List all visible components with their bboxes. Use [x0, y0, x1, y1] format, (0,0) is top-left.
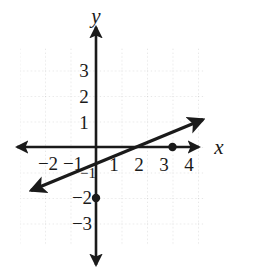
point-x-intercept [168, 143, 176, 151]
x-tick-label-2: 2 [134, 155, 144, 174]
y-tick-label-1: 1 [79, 113, 89, 132]
y-tick-label-3: 3 [79, 61, 89, 80]
coordinate-plane-figure: −2 −1 1 2 3 4 3 2 1 −1 −2 −3 x y [0, 0, 255, 272]
x-tick-label-neg2: −2 [38, 154, 58, 173]
x-tick-label-4: 4 [184, 155, 194, 174]
x-tick-label-1: 1 [109, 155, 119, 174]
y-tick-label-neg3: −3 [72, 214, 92, 233]
x-tick-label-3: 3 [159, 155, 169, 174]
y-tick-label-neg2: −2 [72, 188, 92, 207]
y-axis-label: y [91, 6, 100, 27]
y-tick-label-neg1: −1 [80, 166, 96, 181]
y-tick-label-2: 2 [79, 87, 89, 106]
point-y-intercept [92, 194, 100, 202]
x-axis-label: x [214, 137, 223, 158]
